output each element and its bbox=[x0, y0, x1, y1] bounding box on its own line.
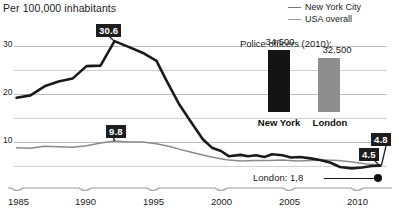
chart-root: Per 100,000 inhabitants New York City US… bbox=[0, 0, 399, 217]
xtick-label-2010: 2010 bbox=[339, 196, 376, 207]
xtick-label-2000: 2000 bbox=[203, 196, 240, 207]
xtick-label-1995: 1995 bbox=[135, 196, 172, 207]
xtick-label-1990: 1990 bbox=[67, 196, 104, 207]
xtick-label-2005: 2005 bbox=[271, 196, 308, 207]
x-axis-line bbox=[8, 188, 392, 191]
x-axis bbox=[0, 0, 399, 217]
xtick-label-1985: 1985 bbox=[0, 196, 37, 207]
